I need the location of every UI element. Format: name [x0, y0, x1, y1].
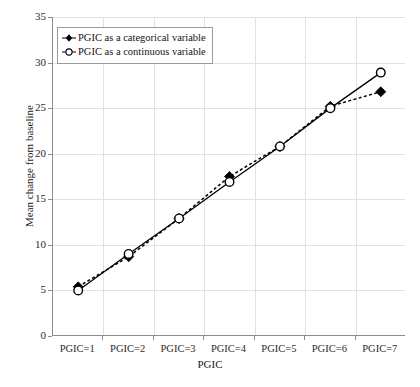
- data-point-marker-continuous: [175, 214, 184, 223]
- legend-item-categorical: PGIC as a categorical variable: [62, 31, 206, 45]
- legend-item-continuous: PGIC as a continuous variable: [62, 45, 206, 59]
- x-axis-title: PGIC: [0, 358, 420, 370]
- x-axis-tick-mark: [254, 336, 255, 340]
- y-axis-tick-label: 25: [16, 102, 46, 113]
- y-axis-tick-label: 0: [16, 330, 46, 341]
- data-point-marker-categorical: [376, 87, 386, 97]
- y-axis-tick-label: 20: [16, 148, 46, 159]
- plot-area: [52, 17, 405, 336]
- data-point-marker-continuous: [225, 178, 234, 187]
- open-circle-marker-icon: [62, 46, 76, 58]
- data-point-marker-continuous: [74, 286, 83, 295]
- chart-legend: PGIC as a categorical variable PGIC as a…: [57, 27, 213, 64]
- y-axis-tick-label: 10: [16, 239, 46, 250]
- filled-diamond-marker-icon: [62, 32, 76, 44]
- x-axis-tick-mark: [153, 336, 154, 340]
- data-point-marker-continuous: [124, 250, 133, 259]
- y-axis-tick-label: 30: [16, 57, 46, 68]
- legend-label-categorical: PGIC as a categorical variable: [78, 32, 206, 44]
- x-axis-tick-mark: [203, 336, 204, 340]
- x-axis-tick-mark: [102, 336, 103, 340]
- x-axis-tick-mark: [304, 336, 305, 340]
- y-axis-tick-label: 15: [16, 193, 46, 204]
- data-point-marker-continuous: [376, 68, 385, 77]
- y-axis-tick-label: 35: [16, 11, 46, 22]
- legend-label-continuous: PGIC as a continuous variable: [78, 46, 206, 58]
- x-axis-tick-label: PGIC=7: [345, 343, 415, 354]
- x-axis-tick-mark: [355, 336, 356, 340]
- data-series-layer: [53, 17, 406, 336]
- y-axis-tick-mark: [48, 336, 52, 337]
- data-point-marker-continuous: [276, 142, 285, 151]
- data-point-marker-continuous: [326, 104, 335, 113]
- y-axis-tick-label: 5: [16, 284, 46, 295]
- chart-figure: Mean change from baseline 05101520253035…: [0, 0, 420, 387]
